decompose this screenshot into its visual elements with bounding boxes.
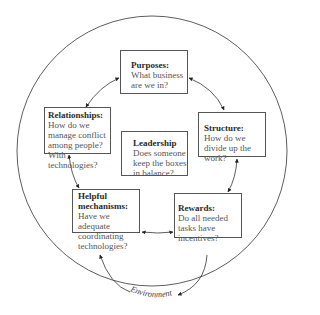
arrow-rewards-helpful bbox=[142, 232, 173, 233]
arrow-structure-rewards bbox=[228, 159, 237, 192]
purposes-title: Purposes: bbox=[131, 60, 187, 70]
helpful-body: Have we adequate coordinating technologi… bbox=[78, 211, 139, 251]
box-relationships: Relationships: How do we manage conflict… bbox=[44, 107, 111, 154]
box-rewards: Rewards: Do all needed tasks have incent… bbox=[174, 193, 242, 238]
structure-body: How do we divide up the work? bbox=[204, 133, 265, 163]
structure-title: Structure: bbox=[204, 123, 265, 133]
leadership-title: Leadership bbox=[133, 138, 187, 148]
box-structure: Structure: How do we divide up the work? bbox=[198, 112, 266, 157]
rewards-body: Do all needed tasks have incentives? bbox=[178, 213, 241, 243]
rewards-title: Rewards: bbox=[178, 203, 241, 213]
arrow-environment-out bbox=[178, 255, 207, 295]
box-leadership: Leadership Does someone keep the boxes i… bbox=[121, 131, 188, 176]
purposes-body: What business are we in? bbox=[131, 70, 187, 90]
arrow-environment-in bbox=[100, 255, 130, 292]
box-helpful-mechanisms: Helpful mechanisms: Have we adequate coo… bbox=[72, 189, 140, 233]
arrow-purposes-relationships bbox=[86, 78, 119, 107]
helpful-title: Helpful mechanisms: bbox=[78, 191, 139, 211]
relationships-body: How do we manage conflict among people? … bbox=[48, 120, 110, 170]
arrow-purposes-structure bbox=[189, 78, 224, 110]
relationships-title: Relationships: bbox=[48, 110, 110, 120]
leadership-body: Does someone keep the boxes in balance? bbox=[133, 148, 187, 178]
box-purposes: Purposes: What business are we in? bbox=[120, 50, 188, 94]
